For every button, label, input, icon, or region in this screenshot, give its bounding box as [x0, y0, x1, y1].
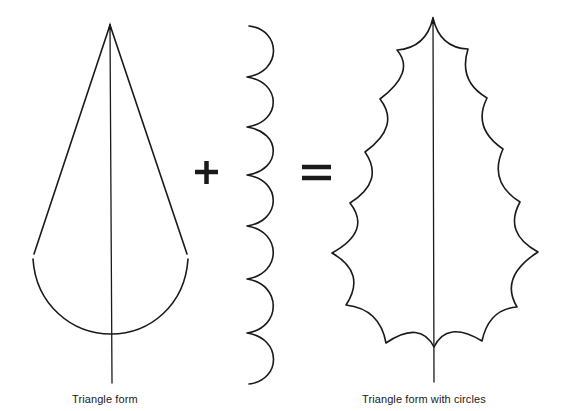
plus-sign [195, 161, 218, 184]
triangle-form-shape [33, 22, 188, 383]
triangle-right-edge [110, 25, 187, 254]
diagram-canvas: Triangle form Triangle form with circles [0, 0, 563, 411]
holly-leaf-outline [332, 18, 538, 347]
triangle-left-edge [34, 25, 110, 254]
holly-leaf-apex [431, 16, 435, 24]
holly-leaf-shape [332, 16, 538, 382]
holly-leaf-midrib [433, 18, 434, 382]
triangle-base-arc [33, 259, 188, 334]
triangle-midrib [110, 25, 112, 383]
scallop-edge [247, 26, 274, 384]
caption-triangle-form-with-circles: Triangle form with circles [362, 393, 486, 405]
caption-triangle-form: Triangle form [72, 393, 138, 405]
equals-sign [302, 167, 331, 178]
scalloped-circles [247, 26, 274, 384]
